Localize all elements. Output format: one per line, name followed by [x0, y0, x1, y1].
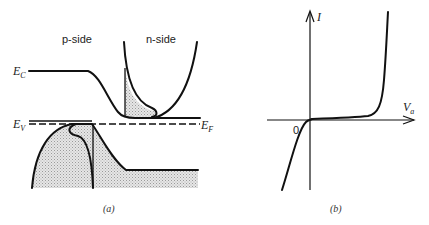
iv-characteristic-curve [282, 12, 388, 190]
diagram-canvas: p-side n-side EC EV EF (a) [0, 0, 429, 225]
ef-label: EF [200, 118, 213, 134]
x-axis-label: Va [403, 100, 414, 116]
n-side-density-parabola [154, 42, 197, 118]
band-diagram-panel: p-side n-side EC EV EF (a) [12, 33, 213, 215]
conduction-band-edge [29, 71, 200, 118]
iv-curve-panel: I Va 0 (b) [267, 10, 414, 215]
conduction-electron-fill [125, 68, 157, 117]
origin-label: 0 [293, 124, 299, 136]
ec-label: EC [12, 64, 26, 80]
ev-label: EV [12, 117, 26, 133]
n-side-label: n-side [146, 33, 176, 45]
p-side-label: p-side [62, 33, 92, 45]
valence-band-fill [32, 124, 198, 188]
caption-a: (a) [103, 203, 115, 215]
y-axis-label: I [316, 10, 322, 24]
caption-b: (b) [330, 203, 342, 215]
